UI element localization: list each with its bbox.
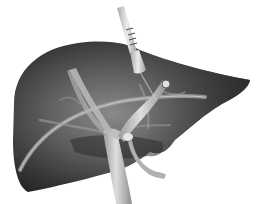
gallbladder-stub xyxy=(123,133,133,141)
liver-illustration: Grayscale illustration of a liver with a… xyxy=(0,0,261,204)
